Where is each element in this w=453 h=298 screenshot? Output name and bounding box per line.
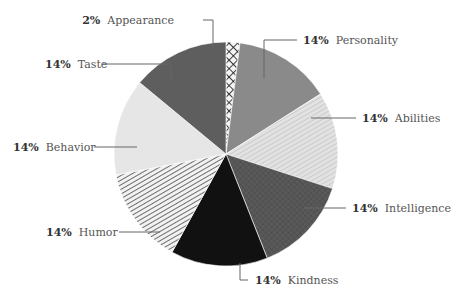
slice-percent: 2% — [82, 14, 101, 27]
pie-chart: 2% Appearance14% Personality14% Abilitie… — [0, 0, 453, 298]
data-label-intelligence: 14% Intelligence — [352, 202, 451, 215]
data-label-behavior: 14% Behavior — [13, 141, 96, 154]
slice-percent: 14% — [303, 34, 329, 47]
slice-label: Abilities — [388, 112, 441, 125]
slice-percent: 14% — [45, 58, 71, 71]
slice-percent: 14% — [46, 226, 72, 239]
data-label-humor: 14% Humor — [46, 226, 118, 239]
slice-label: Humor — [72, 226, 119, 239]
slice-label: Intelligence — [378, 202, 451, 215]
slice-percent: 14% — [13, 141, 39, 154]
data-label-taste: 14% Taste — [45, 58, 107, 71]
data-label-kindness: 14% Kindness — [255, 274, 339, 287]
slice-label: Taste — [71, 58, 108, 71]
slice-label: Behavior — [39, 141, 97, 154]
data-label-personality: 14% Personality — [303, 34, 399, 47]
leader-line-kindness — [240, 263, 248, 280]
slice-label: Kindness — [281, 274, 339, 287]
slice-percent: 14% — [255, 274, 281, 287]
data-label-abilities: 14% Abilities — [362, 112, 441, 125]
slice-label: Appearance — [100, 14, 174, 27]
slice-label: Personality — [329, 34, 399, 47]
data-label-appearance: 2% Appearance — [82, 14, 174, 27]
slice-percent: 14% — [362, 112, 388, 125]
slice-percent: 14% — [352, 202, 378, 215]
